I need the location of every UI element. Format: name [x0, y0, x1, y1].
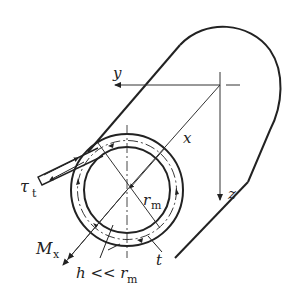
- tau-label: τ: [20, 177, 30, 196]
- tau-subscript: t: [32, 187, 37, 200]
- thickness-label: t: [156, 251, 163, 269]
- radius-line: [98, 143, 160, 228]
- shear-flow-arrows: [76, 143, 179, 243]
- x-axis-label: x: [183, 129, 192, 147]
- z-axis-label: z: [227, 185, 236, 203]
- moment-label: M: [35, 239, 53, 258]
- coordinate-axes: [115, 72, 240, 200]
- tau-element: [38, 148, 103, 185]
- y-axis-label: y: [112, 64, 122, 82]
- torsion-tube-diagram: y x z τ t r m M x t h << r m: [0, 0, 292, 295]
- x-direction-arrow: [130, 148, 165, 188]
- rm-subscript: m: [151, 199, 162, 212]
- rm-label: r: [143, 191, 151, 209]
- thin-wall-condition: h << r: [76, 264, 128, 282]
- moment-subscript: x: [53, 248, 60, 261]
- condition-subscript: m: [127, 273, 138, 286]
